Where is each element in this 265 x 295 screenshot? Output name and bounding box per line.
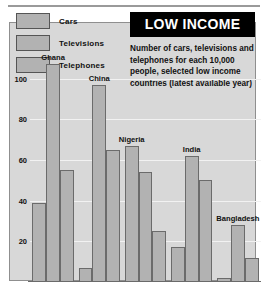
bar-bangladesh-televisions [231,225,245,282]
bar-group-bangladesh [215,48,261,282]
bar-group-india [169,48,215,282]
legend-swatch-cars [16,13,50,29]
country-label-bangladesh: Bangladesh [216,214,259,223]
bar-group-ghana [30,48,76,282]
bar-group-china [76,48,122,282]
bar-nigeria-telephones [152,231,166,282]
bar-india-televisions [185,156,199,282]
bar-china-telephones [106,150,120,282]
legend-item-cars: Cars [16,13,105,29]
y-tick-label: 60 [19,155,27,164]
bar-india-telephones [199,180,213,282]
bar-nigeria-televisions [139,172,153,282]
bar-bangladesh-telephones [245,258,259,282]
y-tick-label: 40 [19,196,27,205]
y-tick-label: 80 [19,115,27,124]
legend-label-cars: Cars [59,17,78,26]
bar-ghana-cars [32,203,46,282]
chart-page: Cars Televisions Telephones LOW INCOME N… [0,0,265,295]
country-label-india: India [183,145,201,154]
bar-china-cars [79,268,93,282]
country-label-nigeria: Nigeria [119,135,145,144]
y-tick-label: 100 [14,74,27,83]
x-axis-baseline [28,281,261,282]
bar-group-nigeria [122,48,168,282]
top-divider [8,5,260,7]
country-label-china: China [89,74,110,83]
y-tick-label: 20 [19,237,27,246]
bar-ghana-televisions [46,64,60,282]
bar-china-televisions [92,85,106,282]
country-label-ghana: Ghana [41,53,65,62]
bar-ghana-telephones [60,170,74,282]
title-banner: LOW INCOME [130,12,255,37]
bar-india-cars [171,247,185,282]
legend-label-televisions: Televisions [59,39,104,48]
plot-area: 20406080100 GhanaChinaNigeriaIndiaBangla… [30,48,261,282]
bar-nigeria-cars [125,146,139,282]
